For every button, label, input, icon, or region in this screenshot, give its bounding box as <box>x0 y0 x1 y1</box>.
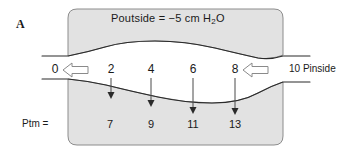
ptm-value-11: 11 <box>187 119 198 130</box>
flow-number-2: 2 <box>108 63 115 75</box>
ptm-label: Ptm = <box>22 119 48 129</box>
ptm-arrow-4 <box>232 78 239 115</box>
right-flow-arrow <box>243 63 268 77</box>
flow-number-4: 4 <box>148 63 155 75</box>
flow-number-8: 8 <box>232 63 239 75</box>
figure-panel-a: A Poutside = −5 cm H2O 0 2 4 6 8 10 Pins… <box>0 0 351 154</box>
left-flow-arrow <box>63 63 88 77</box>
ptm-value-13: 13 <box>229 119 241 130</box>
outside-pressure-title-prefix: Poutside = −5 cm H <box>111 12 211 24</box>
outside-pressure-title: Poutside = −5 cm H2O <box>111 13 225 24</box>
ptm-value-9: 9 <box>148 119 154 130</box>
outside-pressure-title-subscript: 2 <box>211 17 216 26</box>
ptm-value-7: 7 <box>107 119 113 130</box>
ptm-arrow-3 <box>190 78 197 114</box>
outside-pressure-title-suffix: O <box>216 12 225 24</box>
pinside-label: 10 Pinside <box>289 64 336 74</box>
flow-number-0: 0 <box>52 63 59 75</box>
flow-number-6: 6 <box>190 63 197 75</box>
panel-letter: A <box>16 18 25 30</box>
lower-tissue-region <box>68 79 283 145</box>
